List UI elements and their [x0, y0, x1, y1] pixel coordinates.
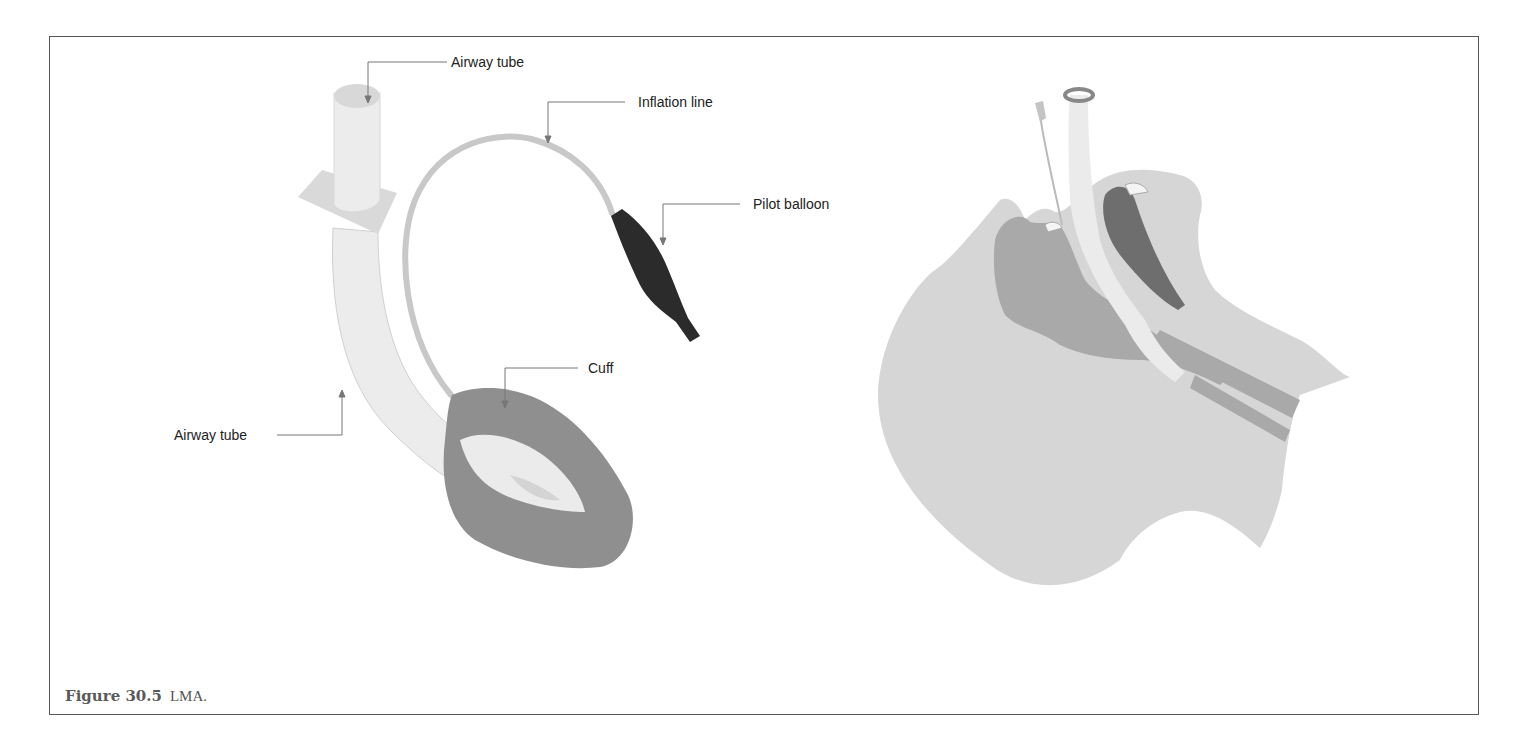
label-inflation-line: Inflation line [638, 94, 713, 110]
label-airway-tube-top: Airway tube [451, 54, 524, 70]
figure-caption: Figure 30.5LMA. [65, 687, 207, 705]
figure-number: Figure 30.5 [65, 687, 162, 705]
label-pilot-balloon: Pilot balloon [753, 196, 829, 212]
label-airway-tube-side: Airway tube [174, 427, 247, 443]
pilot-line-in-situ [1040, 115, 1062, 225]
pilot-balloon-in-situ [1035, 101, 1046, 122]
tube-connector [334, 93, 380, 212]
figure-caption-text: LMA. [170, 688, 207, 704]
label-cuff: Cuff [588, 360, 613, 376]
inflation-line [405, 137, 612, 395]
lma-illustration [0, 0, 1524, 751]
sagittal-head-illustration [878, 89, 1350, 585]
tube-connector-opening [334, 84, 380, 108]
lma-device [298, 84, 700, 568]
pilot-balloon [611, 209, 700, 342]
